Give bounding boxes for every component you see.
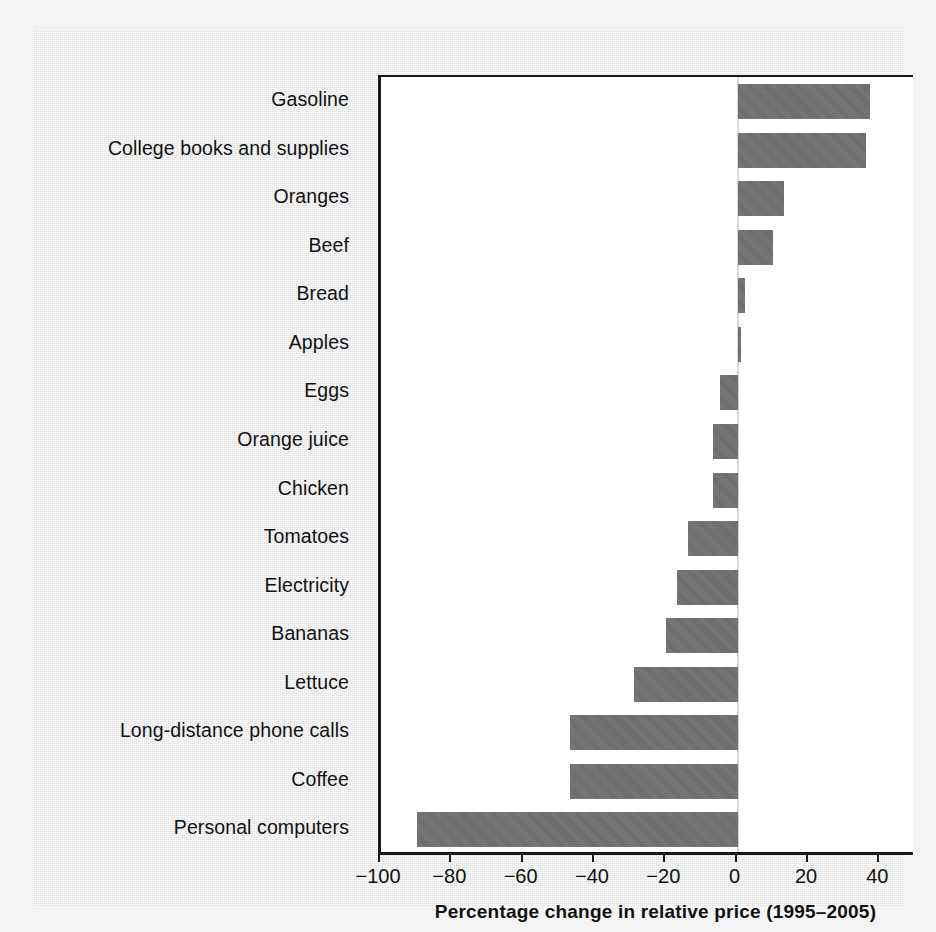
x-tick (521, 852, 523, 862)
bar-row (381, 660, 916, 709)
bar-row (381, 611, 916, 660)
category-label: Orange juice (33, 415, 363, 464)
x-tick (806, 852, 808, 862)
bar (713, 424, 738, 459)
bar-row (381, 126, 916, 175)
bar (713, 473, 738, 508)
category-label: Oranges (33, 172, 363, 221)
bar (634, 667, 737, 702)
bar-row (381, 174, 916, 223)
bar-row (381, 77, 916, 126)
x-axis-title: Percentage change in relative price (199… (378, 901, 933, 923)
category-label: Eggs (33, 366, 363, 415)
bar (666, 618, 737, 653)
x-tick (663, 852, 665, 862)
plot-area (378, 75, 913, 852)
category-label: Beef (33, 221, 363, 270)
x-tick-label: 20 (766, 865, 846, 888)
bar-row (381, 757, 916, 806)
bar-row (381, 271, 916, 320)
category-label: Bread (33, 269, 363, 318)
category-label: Long-distance phone calls (33, 706, 363, 755)
bar-row (381, 223, 916, 272)
x-tick (877, 852, 879, 862)
category-label: Lettuce (33, 658, 363, 707)
bar (738, 327, 742, 362)
category-label: Gasoline (33, 75, 363, 124)
category-label: Chicken (33, 464, 363, 513)
x-tick (378, 852, 380, 862)
category-label: Tomatoes (33, 512, 363, 561)
x-axis-line (378, 852, 913, 855)
x-tick-label: −60 (481, 865, 561, 888)
x-tick-label: −20 (623, 865, 703, 888)
x-tick-label: −40 (552, 865, 632, 888)
category-label: College books and supplies (33, 124, 363, 173)
category-label: Bananas (33, 609, 363, 658)
bar (738, 230, 774, 265)
bar (570, 764, 738, 799)
bar (738, 133, 866, 168)
bar-row (381, 514, 916, 563)
category-label: Electricity (33, 561, 363, 610)
figure-panel: GasolineCollege books and suppliesOrange… (33, 27, 903, 907)
x-tick (735, 852, 737, 862)
bar-row (381, 417, 916, 466)
bar-row (381, 708, 916, 757)
bar (570, 715, 738, 750)
bar (417, 812, 738, 847)
bar (720, 375, 738, 410)
figure-page: GasolineCollege books and suppliesOrange… (0, 0, 936, 932)
bar (738, 278, 745, 313)
y-axis-category-labels: GasolineCollege books and suppliesOrange… (33, 75, 363, 852)
bar-row (381, 368, 916, 417)
bar (738, 84, 870, 119)
x-tick-label: 40 (837, 865, 917, 888)
x-tick-label: 0 (695, 865, 775, 888)
x-tick (449, 852, 451, 862)
category-label: Coffee (33, 755, 363, 804)
bar-row (381, 805, 916, 854)
x-tick-label: −80 (409, 865, 489, 888)
bar (677, 570, 738, 605)
category-label: Personal computers (33, 803, 363, 852)
bar-row (381, 466, 916, 515)
bar-row (381, 320, 916, 369)
category-label: Apples (33, 318, 363, 367)
bar (688, 521, 738, 556)
bar-row (381, 563, 916, 612)
x-tick (592, 852, 594, 862)
x-tick-label: −100 (338, 865, 418, 888)
bar (738, 181, 784, 216)
